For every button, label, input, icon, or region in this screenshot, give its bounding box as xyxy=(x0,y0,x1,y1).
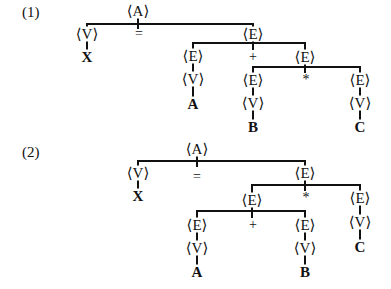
leaf-c: C xyxy=(354,240,367,255)
node-expression: ⟨E⟩ xyxy=(294,166,317,181)
operator-equals: = xyxy=(192,170,202,184)
leaf-a: A xyxy=(187,97,200,112)
node-expression: ⟨E⟩ xyxy=(294,218,317,233)
node-expression: ⟨E⟩ xyxy=(294,50,317,65)
node-expression: ⟨E⟩ xyxy=(241,193,264,208)
leaf-b: B xyxy=(247,120,259,135)
node-expression: ⟨E⟩ xyxy=(186,218,209,233)
node-variable: ⟨V⟩ xyxy=(75,27,100,42)
node-expression: ⟨E⟩ xyxy=(349,191,372,206)
node-variable: ⟨V⟩ xyxy=(185,241,210,256)
node-assignment: ⟨A⟩ xyxy=(185,142,210,157)
figure-label: (1) xyxy=(22,4,40,21)
node-expression: ⟨E⟩ xyxy=(242,27,265,42)
node-expression: ⟨E⟩ xyxy=(242,73,265,88)
node-expression: ⟨E⟩ xyxy=(349,73,372,88)
leaf-x: X xyxy=(81,50,94,65)
leaf-a: A xyxy=(191,265,204,280)
leaf-x: X xyxy=(132,189,145,204)
node-variable: ⟨V⟩ xyxy=(181,72,206,87)
operator-times: * xyxy=(302,191,311,205)
node-variable: ⟨V⟩ xyxy=(126,166,151,181)
node-variable: ⟨V⟩ xyxy=(348,96,373,111)
leaf-b: B xyxy=(299,265,311,280)
node-variable: ⟨V⟩ xyxy=(348,215,373,230)
operator-equals: = xyxy=(134,27,144,41)
node-variable: ⟨V⟩ xyxy=(293,241,318,256)
figure-label: (2) xyxy=(22,144,40,161)
operator-times: * xyxy=(302,73,311,87)
leaf-c: C xyxy=(354,120,367,135)
node-assignment: ⟨A⟩ xyxy=(126,4,151,19)
node-variable: ⟨V⟩ xyxy=(241,96,266,111)
node-expression: ⟨E⟩ xyxy=(182,49,205,64)
operator-plus: + xyxy=(248,218,258,232)
operator-plus: + xyxy=(248,50,258,64)
